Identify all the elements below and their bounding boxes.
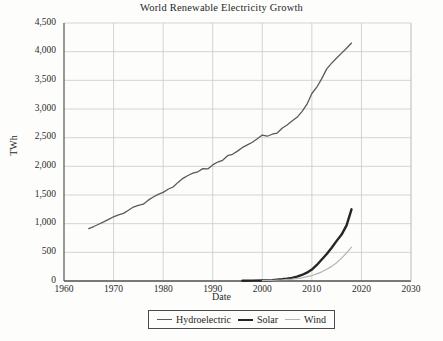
x-tick-label: 1960 — [42, 284, 86, 294]
y-tick-label: 3,000 — [4, 103, 56, 113]
y-tick-label: 3,500 — [4, 74, 56, 84]
y-tick-label: 2,000 — [4, 160, 56, 170]
legend-label-solar: Solar — [257, 314, 278, 325]
legend-item-wind: Wind — [285, 314, 326, 325]
y-tick-label: 4,500 — [4, 17, 56, 27]
x-tick-label: 1990 — [191, 284, 235, 294]
legend-label-wind: Wind — [304, 314, 326, 325]
legend-item-solar: Solar — [238, 314, 278, 325]
y-tick-label: 1,500 — [4, 189, 56, 199]
y-tick-label: 1,000 — [4, 217, 56, 227]
x-tick-label: 2020 — [339, 284, 383, 294]
chart-legend: Hydroelectric Solar Wind — [148, 310, 335, 329]
legend-swatch-hydroelectric-icon — [157, 319, 172, 320]
x-tick-label: 1970 — [92, 284, 136, 294]
legend-label-hydroelectric: Hydroelectric — [176, 314, 231, 325]
legend-swatch-solar-icon — [238, 319, 253, 321]
x-tick-label: 2000 — [240, 284, 284, 294]
legend-item-hydroelectric: Hydroelectric — [157, 314, 231, 325]
y-tick-label: 0 — [4, 275, 56, 285]
x-tick-label: 2010 — [290, 284, 334, 294]
y-tick-label: 2,500 — [4, 131, 56, 141]
series-line-solar — [242, 209, 351, 280]
chart-container: World Renewable Electricity Growth TWh D… — [0, 0, 443, 341]
x-tick-label: 2030 — [389, 284, 433, 294]
y-tick-label: 4,000 — [4, 45, 56, 55]
legend-swatch-wind-icon — [285, 319, 300, 320]
y-tick-label: 500 — [4, 246, 56, 256]
x-tick-label: 1980 — [141, 284, 185, 294]
